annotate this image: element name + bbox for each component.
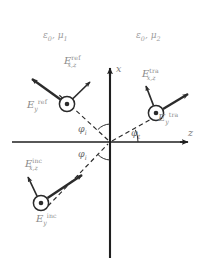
angle-arc-phi-i-upper	[98, 124, 110, 130]
reflected-inplane-sub: x,z	[68, 61, 77, 68]
x-axis-label: x	[116, 64, 121, 74]
medium-left-label: ε0, μ1	[43, 31, 68, 42]
angle-arc-phi-i-lower	[98, 154, 110, 160]
incident-outofplane-label: Eyinc	[36, 213, 57, 227]
incident-inplane-sup: inc	[32, 157, 42, 164]
transmitted-propagation-arrow	[163, 94, 188, 109]
phi-t-sub: t	[138, 133, 141, 140]
transmitted-outofplane-sub: y	[165, 118, 169, 125]
reflected-outofplane-sup: ref	[38, 98, 47, 105]
phi-i-lower-symbol: φ	[78, 148, 85, 159]
incident-inplane-sub: x,z	[29, 164, 38, 171]
incident-circled-dot-marker	[33, 195, 48, 210]
phi-i-lower-sub: i	[85, 154, 87, 161]
phi-i-upper-symbol: φ	[78, 123, 85, 134]
transmitted-inplane-label: Etrax,z	[142, 68, 155, 82]
medium-left-mu-sub: 1	[64, 35, 68, 43]
incident-outofplane-sup: inc	[47, 212, 57, 219]
medium-right-mu-sub: 2	[157, 35, 161, 43]
reflected-inplane-label: Erefx,z	[64, 55, 76, 69]
physics-diagram-figure: ε0, μ1 ε0, μ2 x z φi φi φt Erefx,z Eyref…	[0, 0, 204, 265]
reflected-inplane-sup: ref	[71, 54, 80, 61]
reflected-outofplane-label: Eyref	[27, 99, 47, 113]
transmitted-inplane-sup: tra	[149, 67, 158, 74]
transmitted-inplane-arrow	[146, 86, 154, 106]
incident-inplane-arrow	[28, 177, 37, 196]
transmitted-inplane-sub: x,z	[147, 74, 156, 81]
reflected-outofplane-sub: y	[34, 105, 38, 112]
angle-label-phi-i-lower: φi	[78, 149, 87, 161]
medium-right-label: ε0, μ2	[136, 31, 161, 42]
phi-i-upper-sub: i	[85, 129, 87, 136]
angle-label-phi-i-upper: φi	[78, 124, 87, 136]
angle-label-phi-t: φt	[131, 128, 140, 140]
transmitted-outofplane-label: Eytra	[158, 112, 178, 126]
transmitted-outofplane-sup: tra	[169, 111, 178, 118]
incident-inplane-label: Eincx,z	[25, 158, 38, 172]
reflected-inplane-arrow	[73, 82, 91, 99]
diagram-canvas	[0, 0, 204, 265]
reflected-propagation-arrow	[32, 79, 61, 100]
incident-outofplane-sub: y	[43, 219, 47, 226]
phi-t-symbol: φ	[131, 127, 138, 138]
incident-propagation-arrow	[48, 175, 83, 198]
z-axis-label: z	[188, 128, 193, 138]
